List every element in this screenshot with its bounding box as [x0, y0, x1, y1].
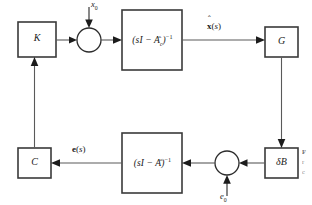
tf-top-exponent: −1 [166, 33, 173, 40]
signal-label-x-hat-initial: ˆx0 [91, 0, 98, 11]
block-label-k: K [18, 33, 56, 43]
block-label-c: C [18, 157, 51, 167]
block-diagram: K C G δB (sI − Aˆc)−1 (sI − Aˆ)−1 ˆx0 ˆx… [0, 0, 312, 205]
hat-accent-bottom: ˆ [160, 160, 163, 168]
summing-junction-top [77, 28, 101, 52]
hat-accent-x-initial: ˆ [92, 0, 95, 3]
tf-bottom-exponent: −1 [165, 156, 172, 163]
caption-line-2: r [302, 157, 312, 167]
page-caption-fragment: F r c [302, 147, 312, 177]
x-hat-s-close-paren: ) [218, 21, 221, 31]
arrow-into-tf-bottom [182, 159, 191, 167]
tf-bottom-base: (sI − A [134, 158, 162, 168]
tf-top-base: (sI − A [132, 35, 160, 45]
signal-label-x-hat-s: ˆx(s) [207, 22, 221, 31]
block-label-tf-top: (sI − Aˆc)−1 [128, 34, 177, 48]
arrow-into-tf-top [113, 36, 122, 44]
signal-label-e-initial: e0 [220, 192, 227, 203]
hat-accent-top: ˆ [159, 37, 162, 45]
caption-line-3: c [302, 167, 312, 177]
signal-label-e-s: e(s) [72, 145, 86, 154]
hat-accent-x-s: ˆ [208, 16, 211, 24]
e-s-close-paren: ) [83, 144, 86, 154]
e-initial-subscript: 0 [224, 197, 227, 203]
arrow-into-delta-b [278, 139, 286, 148]
arrow-into-sum-bottom-below [223, 175, 231, 184]
arrow-into-sum-bottom-right [239, 159, 248, 167]
arrow-into-g [256, 36, 265, 44]
arrow-into-c [51, 159, 60, 167]
block-label-tf-bottom: (sI − Aˆ)−1 [128, 157, 177, 169]
block-label-g: G [265, 36, 298, 46]
arrow-into-sum-top-above [85, 20, 93, 29]
x-hat-s-hat-group: ˆx [207, 22, 212, 31]
arrow-into-k [31, 57, 39, 66]
diagram-canvas [0, 0, 312, 205]
summing-junction-bottom [215, 151, 239, 175]
arrow-into-sum-top-left [69, 36, 77, 43]
x-hat-initial-hat-group: ˆx [91, 0, 95, 9]
block-label-delta-b: δB [265, 157, 298, 167]
caption-line-1: F [302, 147, 312, 157]
x-hat-initial-subscript: 0 [95, 5, 98, 11]
